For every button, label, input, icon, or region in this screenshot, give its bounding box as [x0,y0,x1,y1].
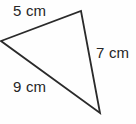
side-length-label-5cm: 5 cm [13,3,46,18]
side-length-label-9cm: 9 cm [13,79,46,94]
triangle-figure: 5 cm 7 cm 9 cm [0,0,136,124]
triangle-outline [1,11,100,113]
side-length-label-7cm: 7 cm [96,45,129,60]
